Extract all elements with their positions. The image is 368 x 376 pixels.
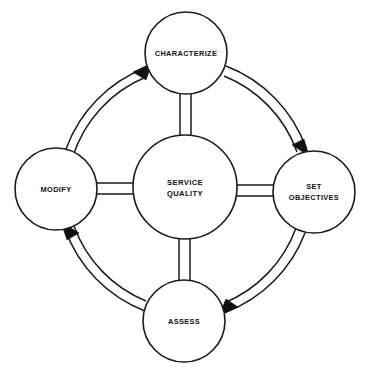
node-characterize-label: CHARACTERIZE — [155, 49, 218, 58]
spoke-hub-assess — [179, 239, 190, 281]
cycle-diagram-canvas: CHARACTERIZE SET OBJECTIVES ASSESS MODIF… — [0, 0, 368, 376]
spoke-hub-set-objectives — [236, 185, 275, 196]
node-assess[interactable]: ASSESS — [143, 280, 225, 362]
spoke-hub-modify — [96, 183, 135, 194]
arc-inner-stroke — [74, 226, 146, 301]
node-characterize[interactable]: CHARACTERIZE — [145, 12, 227, 94]
node-modify[interactable]: MODIFY — [15, 148, 97, 230]
arc-outer-stroke — [65, 229, 145, 311]
node-set-objectives-label-line2: OBJECTIVES — [289, 193, 339, 202]
spoke-hub-characterize — [180, 94, 191, 136]
node-modify-label: MODIFY — [41, 185, 72, 194]
node-service-quality-hub[interactable]: SERVICE QUALITY — [133, 135, 237, 239]
node-assess-label: ASSESS — [168, 317, 200, 326]
node-set-objectives-label-line1: SET — [306, 182, 322, 191]
node-set-objectives[interactable]: SET OBJECTIVES — [273, 151, 355, 233]
hub-label-line1: SERVICE — [167, 178, 203, 187]
arc-set-objectives-to-assess — [219, 228, 305, 316]
hub-circle[interactable] — [133, 135, 237, 239]
arc-outer-stroke — [66, 68, 145, 149]
arc-characterize-to-set-objectives — [224, 66, 309, 156]
arc-inner-stroke — [224, 228, 296, 303]
service-quality-cycle-diagram: CHARACTERIZE SET OBJECTIVES ASSESS MODIF… — [0, 0, 368, 376]
arc-assess-to-modify — [61, 222, 146, 311]
arc-outer-stroke — [226, 233, 305, 312]
arc-inner-stroke — [224, 76, 297, 152]
arc-modify-to-characterize — [66, 63, 152, 156]
hub-label-line2: QUALITY — [167, 189, 203, 198]
arc-outer-stroke — [226, 66, 306, 148]
